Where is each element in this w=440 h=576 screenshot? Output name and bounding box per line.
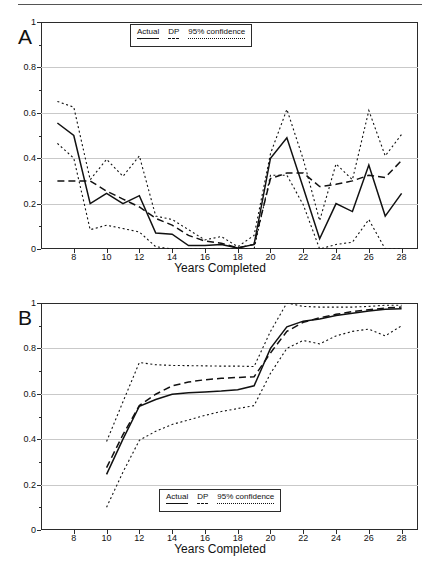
- x-tick-mark: [107, 530, 108, 534]
- x-tick-label: 28: [397, 253, 407, 262]
- x-tick-mark: [336, 530, 337, 534]
- x-tick-label: 20: [265, 253, 275, 262]
- y-tick-label: 0.8: [23, 344, 36, 353]
- x-tick-mark: [270, 249, 271, 253]
- legend-key-solid-icon-b: [166, 503, 188, 507]
- x-tick-label: 24: [331, 534, 341, 543]
- x-tick-mark: [139, 530, 140, 534]
- x-tick-mark: [369, 249, 370, 253]
- legend-item-dp: DP: [168, 28, 179, 42]
- x-tick-label: 8: [71, 253, 76, 262]
- legend-item-dp-b: DP: [197, 493, 208, 507]
- legend-item-actual-b: Actual: [166, 493, 188, 507]
- y-tick-label: 0.2: [23, 199, 36, 208]
- panel-label-a: A: [18, 26, 32, 47]
- series-line: [107, 326, 402, 508]
- legend-item-confidence-b: 95% confidence: [217, 493, 274, 507]
- y-tick-label: 0.8: [23, 63, 36, 72]
- x-tick-label: 20: [265, 534, 275, 543]
- legend-item-actual: Actual: [137, 28, 159, 42]
- x-tick-label: 12: [134, 534, 144, 543]
- y-tick-label: 1: [31, 18, 36, 27]
- x-tick-mark: [336, 249, 337, 253]
- legend-a: Actual DP 95% confidence: [130, 24, 252, 47]
- x-tick-label: 8: [71, 534, 76, 543]
- top-divider: [18, 4, 422, 5]
- series-line: [107, 309, 402, 475]
- x-tick-label: 22: [298, 253, 308, 262]
- x-tick-label: 12: [134, 253, 144, 262]
- legend-label-actual: Actual: [137, 28, 159, 36]
- chart-panel-b: B 00.20.40.60.81810121416182022242628 Ac…: [0, 292, 440, 572]
- legend-key-dotted-icon: [188, 38, 245, 42]
- legend-label-confidence-b: 95% confidence: [217, 493, 274, 501]
- x-tick-mark: [172, 249, 173, 253]
- x-axis-title-a: Years Completed: [0, 262, 440, 275]
- y-tick-label: 0.6: [23, 389, 36, 398]
- x-tick-label: 24: [331, 253, 341, 262]
- x-tick-label: 26: [364, 253, 374, 262]
- panel-label-b: B: [18, 307, 32, 328]
- x-tick-mark: [238, 249, 239, 253]
- y-tick-label: 0: [31, 245, 36, 254]
- x-tick-mark: [402, 249, 403, 253]
- data-lines-a: [41, 22, 418, 249]
- x-tick-mark: [172, 530, 173, 534]
- x-tick-mark: [270, 530, 271, 534]
- series-line: [57, 143, 401, 249]
- x-tick-mark: [369, 530, 370, 534]
- y-tick-label: 0.2: [23, 480, 36, 489]
- series-line: [107, 303, 402, 441]
- legend-label-dp-b: DP: [197, 493, 208, 501]
- x-tick-mark: [402, 530, 403, 534]
- chart-panel-a: A 00.20.40.60.81810121416182022242628 Ac…: [0, 10, 440, 278]
- legend-label-confidence: 95% confidence: [188, 28, 245, 36]
- legend-key-dashed-icon: [168, 38, 179, 42]
- y-tick-label: 1: [31, 299, 36, 308]
- y-tick-label: 0.4: [23, 154, 36, 163]
- legend-item-confidence: 95% confidence: [188, 28, 245, 42]
- x-tick-label: 10: [102, 253, 112, 262]
- y-tick-mark: [37, 249, 41, 250]
- x-tick-mark: [205, 530, 206, 534]
- x-tick-label: 10: [102, 534, 112, 543]
- x-tick-mark: [107, 249, 108, 253]
- x-tick-mark: [303, 530, 304, 534]
- plot-area-b: 00.20.40.60.81810121416182022242628 Actu…: [41, 303, 418, 530]
- x-tick-mark: [139, 249, 140, 253]
- x-tick-mark: [238, 530, 239, 534]
- series-line: [57, 123, 401, 248]
- x-tick-mark: [205, 249, 206, 253]
- y-tick-label: 0.6: [23, 108, 36, 117]
- x-tick-label: 28: [397, 534, 407, 543]
- legend-label-dp: DP: [168, 28, 179, 36]
- x-tick-label: 22: [298, 534, 308, 543]
- x-tick-mark: [74, 530, 75, 534]
- plot-area-a: 00.20.40.60.81810121416182022242628: [41, 22, 418, 249]
- legend-b: Actual DP 95% confidence: [159, 489, 281, 512]
- x-tick-mark: [303, 249, 304, 253]
- x-tick-label: 26: [364, 534, 374, 543]
- legend-key-dotted-icon-b: [217, 503, 274, 507]
- legend-label-actual-b: Actual: [166, 493, 188, 501]
- series-line: [57, 160, 401, 247]
- x-axis-title-b: Years Completed: [0, 543, 440, 556]
- y-tick-mark: [37, 530, 41, 531]
- y-tick-label: 0: [31, 526, 36, 535]
- legend-key-dashed-icon-b: [197, 503, 208, 507]
- series-line: [57, 101, 401, 246]
- x-tick-mark: [74, 249, 75, 253]
- legend-key-solid-icon: [137, 38, 159, 42]
- y-tick-label: 0.4: [23, 435, 36, 444]
